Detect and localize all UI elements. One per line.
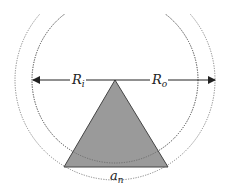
inscribed-triangle-diagram: Ri Ro an (0, 0, 227, 189)
triangle (64, 80, 168, 167)
side-length-label: an (110, 168, 124, 185)
